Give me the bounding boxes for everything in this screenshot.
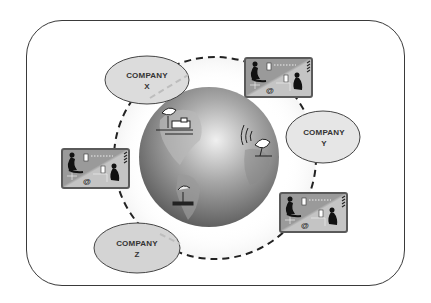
- svg-text:@: @: [301, 221, 309, 230]
- globe-icon: [139, 87, 279, 227]
- company-x-label: COMPANY X: [107, 70, 187, 92]
- workstation-card-top-right: @: [244, 57, 313, 98]
- workstation-card-left: @: [61, 148, 130, 189]
- workstation-people-icon: @: [246, 59, 311, 96]
- company-y-line1: COMPANY: [286, 127, 362, 138]
- workstation-people-icon: @: [63, 150, 128, 187]
- company-y-line2: Y: [286, 138, 362, 149]
- svg-text:@: @: [83, 177, 91, 186]
- company-x-line1: COMPANY: [107, 70, 187, 81]
- workstation-people-icon: @: [281, 194, 346, 231]
- workstation-card-bottom-right: @: [279, 192, 348, 233]
- company-z-line2: Z: [97, 249, 177, 260]
- company-x-line2: X: [107, 81, 187, 92]
- company-y-label: COMPANY Y: [286, 127, 362, 149]
- company-z-label: COMPANY Z: [97, 238, 177, 260]
- svg-text:@: @: [266, 86, 274, 95]
- company-z-line1: COMPANY: [97, 238, 177, 249]
